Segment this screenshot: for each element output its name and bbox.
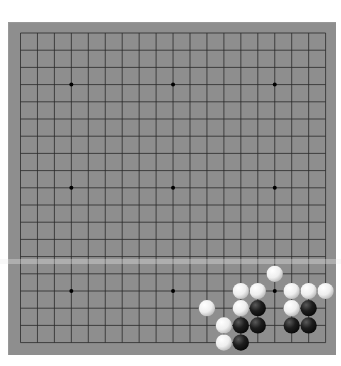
board-grid[interactable] (0, 0, 341, 366)
white-stone[interactable] (199, 300, 215, 316)
white-stone[interactable] (233, 300, 249, 316)
star-point (171, 186, 175, 190)
black-stone[interactable] (233, 317, 249, 333)
white-stone[interactable] (284, 283, 300, 299)
star-point (171, 289, 175, 293)
white-stone[interactable] (216, 335, 232, 351)
white-stone[interactable] (233, 283, 249, 299)
white-stone[interactable] (216, 317, 232, 333)
black-stone[interactable] (250, 300, 266, 316)
black-stone[interactable] (301, 300, 317, 316)
white-stone[interactable] (284, 300, 300, 316)
black-stone[interactable] (233, 335, 249, 351)
star-point (69, 289, 73, 293)
white-stone[interactable] (250, 283, 266, 299)
star-point (69, 83, 73, 87)
white-stone[interactable] (318, 283, 334, 299)
black-stone[interactable] (250, 317, 266, 333)
star-point (171, 83, 175, 87)
white-stone[interactable] (267, 266, 283, 282)
black-stone[interactable] (301, 317, 317, 333)
white-stone[interactable] (301, 283, 317, 299)
black-stone[interactable] (284, 317, 300, 333)
star-point (69, 186, 73, 190)
star-point (273, 186, 277, 190)
star-point (273, 83, 277, 87)
star-point (273, 289, 277, 293)
